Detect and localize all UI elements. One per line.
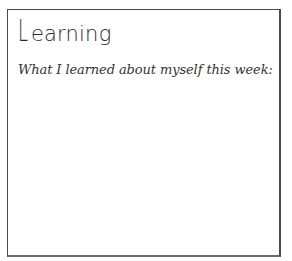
section-title: Learning	[18, 16, 111, 46]
learning-section-box: Learning What I learned about myself thi…	[7, 9, 281, 257]
response-writing-area[interactable]	[16, 84, 271, 244]
section-title-initial: L	[18, 16, 28, 46]
section-title-rest: earning	[31, 22, 112, 46]
reflection-prompt: What I learned about myself this week:	[18, 62, 273, 77]
